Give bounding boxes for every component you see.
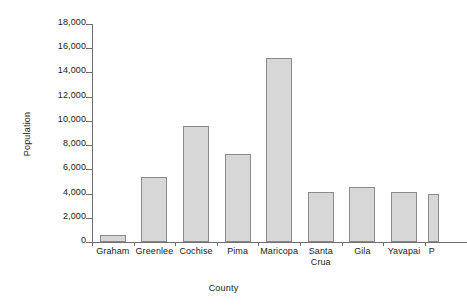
y-axis-tick-label: 18,000 — [6, 17, 86, 27]
x-axis-title-text: County — [209, 283, 239, 293]
bar[interactable] — [391, 192, 417, 242]
bar-slot — [300, 24, 342, 242]
y-axis-tick-label: 14,000 — [6, 65, 86, 75]
y-axis-tick-label: 4,000 — [6, 187, 86, 197]
x-axis-tick-label-line: Crua — [300, 257, 342, 268]
bar[interactable] — [266, 58, 292, 242]
y-axis-tick-label: 12,000 — [6, 90, 86, 100]
x-axis-tick-label-line: Greenlee — [135, 246, 173, 256]
bar[interactable] — [428, 194, 439, 242]
x-axis-tick-labels: GrahamGreenleeCochisePimaMaricopaSantaCr… — [92, 246, 467, 267]
x-axis-tick-label-line: Yavapai — [388, 246, 421, 256]
x-axis-tick-label-line: Cochise — [179, 246, 212, 256]
x-axis-tick-label-line: P — [429, 246, 435, 256]
bar-chart: Population 02,0004,0006,0008,00010,00012… — [0, 0, 467, 308]
bar[interactable] — [183, 126, 209, 242]
x-axis-tick-label-line: Santa — [309, 246, 333, 256]
bar-slot — [383, 24, 425, 242]
x-axis-tick-label: Maricopa — [258, 246, 300, 267]
y-axis-tick-label: 6,000 — [6, 162, 86, 172]
x-axis-tick-label: Pima — [217, 246, 259, 267]
bar-slot — [175, 24, 217, 242]
x-axis-line — [92, 242, 467, 243]
bar-slot — [92, 24, 134, 242]
x-axis-tick-label: SantaCrua — [300, 246, 342, 267]
x-axis-tick-label: Cochise — [175, 246, 217, 267]
bar-slot — [342, 24, 384, 242]
y-axis-tick-label: 10,000 — [6, 114, 86, 124]
x-axis-tick-label: P — [425, 246, 449, 267]
bar[interactable] — [225, 154, 251, 242]
bar-slot — [425, 24, 445, 242]
bar[interactable] — [100, 235, 126, 242]
y-axis-tick-label: 0 — [6, 235, 86, 245]
x-axis-tick-label-line: Graham — [96, 246, 129, 256]
bar-slot — [217, 24, 259, 242]
y-axis-tick-label: 8,000 — [6, 138, 86, 148]
bar[interactable] — [141, 177, 167, 242]
y-axis-tick-label: 2,000 — [6, 211, 86, 221]
bar-slot — [258, 24, 300, 242]
x-axis-tick-label-line: Maricopa — [260, 246, 298, 256]
x-axis-tick-label: Graham — [92, 246, 134, 267]
bar-series — [92, 24, 467, 242]
y-axis-tick-label: 16,000 — [6, 41, 86, 51]
bar[interactable] — [349, 187, 375, 242]
x-axis-tick-label-line: Pima — [227, 246, 248, 256]
x-axis-tick-label: Greenlee — [134, 246, 176, 267]
x-axis-tick-label-line: Gila — [354, 246, 370, 256]
bar[interactable] — [308, 192, 334, 242]
bar-slot — [134, 24, 176, 242]
x-axis-title: County — [0, 283, 467, 293]
x-axis-tick-label: Yavapai — [383, 246, 425, 267]
x-axis-tick-label: Gila — [342, 246, 384, 267]
